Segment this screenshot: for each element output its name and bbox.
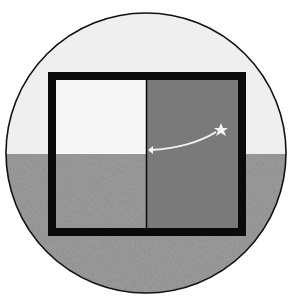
shaded-panel [147,80,238,228]
left-panel-sky [56,80,146,154]
eyepiece-diagram [0,0,292,306]
viewport [0,0,292,306]
